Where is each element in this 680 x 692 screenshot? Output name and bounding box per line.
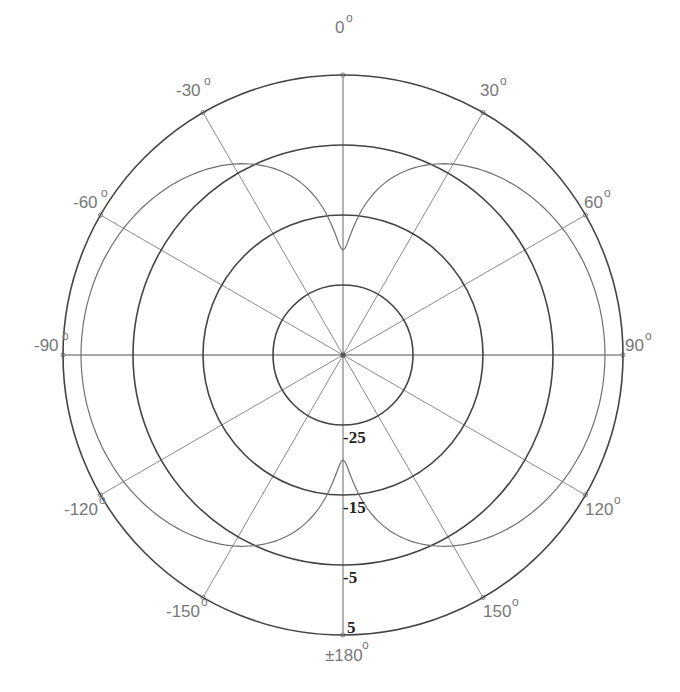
angle-label-120: 120 [585, 500, 613, 519]
degree-symbol: o [604, 186, 611, 200]
radial-label-minus-25: -25 [343, 428, 366, 447]
degree-symbol: o [512, 595, 519, 609]
degree-symbol: o [201, 595, 208, 609]
degree-symbol: o [204, 74, 211, 88]
polar-chart: 0 o 30 o 60 o 90 o 120 o 150 o ±180 o -1… [0, 0, 680, 692]
radial-labels: -25 -15 -5 5 [343, 428, 366, 637]
radial-label-minus-5: -5 [343, 568, 357, 587]
angle-label-minus-30: -30 [176, 81, 201, 100]
degree-symbol: o [645, 329, 652, 343]
angle-label-0: 0 [335, 18, 344, 37]
angle-label-minus-60: -60 [73, 193, 98, 212]
center-point [341, 353, 346, 358]
angle-label-minus-150: -150 [166, 602, 200, 621]
degree-symbol: o [614, 493, 621, 507]
radial-label-5: 5 [347, 618, 356, 637]
angle-label-minus-120: -120 [64, 500, 98, 519]
degree-symbol: o [99, 493, 106, 507]
degree-symbol: o [362, 638, 369, 652]
radial-label-minus-15: -15 [343, 498, 366, 517]
angle-label-150: 150 [483, 602, 511, 621]
angle-label-90: 90 [625, 336, 644, 355]
degree-symbol: o [62, 329, 69, 343]
degree-symbol: o [346, 11, 353, 25]
angle-label-60: 60 [584, 193, 603, 212]
angle-label-180: ±180 [325, 646, 363, 665]
angle-label-minus-90: -90 [34, 336, 59, 355]
degree-symbol: o [500, 74, 507, 88]
angle-label-30: 30 [480, 81, 499, 100]
polar-grid [61, 73, 625, 637]
degree-symbol: o [101, 186, 108, 200]
